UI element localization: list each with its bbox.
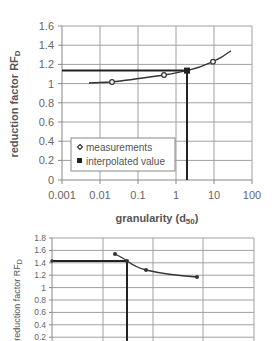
measurement-point [113,252,117,256]
y-tick: 0.2 [34,332,46,341]
y-tick: 1.8 [34,233,46,243]
y-tick: 0.4 [34,320,46,330]
x-axis-title: granularity (d50) [116,212,199,226]
measurement-point [195,275,199,279]
y-tick: 0.8 [39,97,54,109]
bottom-y-tick-labels: 1.8 1.6 1.4 1.2 1 0.8 0.6 0.4 0.2 [34,233,46,341]
x-tick: 0.001 [48,189,76,201]
measurement-point [110,80,115,85]
x-tick: 0.1 [130,189,145,201]
y-axis-title: reduction factor RFD [8,50,22,157]
legend-item-measurements: measurements [78,142,153,153]
square-icon [77,158,82,163]
bottom-grid [52,238,254,341]
y-tick: 0 [48,174,54,186]
legend-label: interpolated value [86,156,165,167]
y-tick: 1.6 [39,20,54,32]
x-tick: 1 [173,189,179,201]
y-tick: 1.4 [39,39,54,51]
bottom-y-axis-title: reduction factor RFD [12,259,23,341]
y-tick: 1.4 [34,258,46,268]
fit-curve [89,51,231,83]
y-tick: 1.6 [34,245,46,255]
top-x-tick-labels: 0.001 0.01 0.1 1 10 100 [48,189,261,201]
measurement-point [211,59,216,64]
top-chart: 1.6 1.4 1.2 1 0.8 0.6 0.4 0.2 0 0.001 0.… [0,0,277,230]
y-tick: 1 [48,78,54,90]
x-tick: 10 [208,189,220,201]
bottom-axes [49,238,52,341]
y-tick: 1.2 [34,270,46,280]
y-tick: 0.6 [39,116,54,128]
y-tick: 0.6 [34,307,46,317]
bottom-markers [113,252,199,279]
interpolated-point [125,259,129,263]
x-tick: 0.01 [89,189,110,201]
legend-label: measurements [86,142,152,153]
interpolated-point [184,68,190,74]
y-tick: 0.2 [39,154,54,166]
y-tick: 0.8 [34,295,46,305]
top-y-tick-labels: 1.6 1.4 1.2 1 0.8 0.6 0.4 0.2 0 [39,20,54,186]
x-tick: 100 [243,189,261,201]
interp-axis-marker [50,259,54,263]
legend-item-interpolated: interpolated value [77,156,165,167]
measurement-point [144,268,148,272]
legend: measurements interpolated value [71,138,175,171]
bottom-interpolation-lines [52,261,127,341]
bottom-fit-curve [115,254,197,277]
y-tick: 1 [41,283,46,293]
y-tick: 0.4 [39,135,54,147]
y-tick: 1.2 [39,58,54,70]
measurement-point [162,73,167,78]
